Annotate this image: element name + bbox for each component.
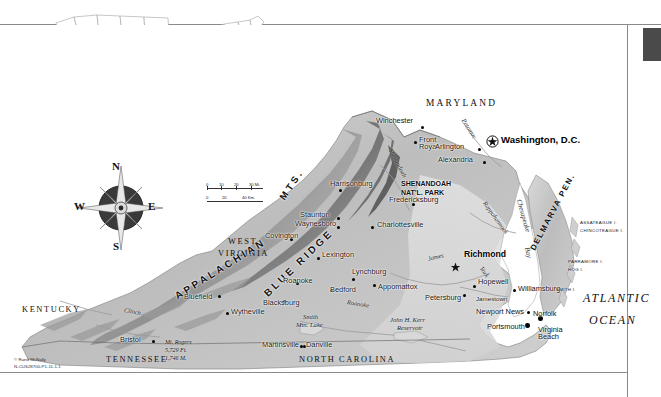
richmond-symbol: [450, 259, 461, 277]
city-label-jamestown: Jamestown: [476, 296, 507, 302]
scale-tick: [207, 186, 208, 190]
city-label-waynesboro: Waynesboro: [295, 220, 336, 228]
compass-east-label: E: [148, 200, 155, 212]
island-label-chincoteague: CHINCOTEAGUE I.: [580, 229, 624, 234]
city-label-williamsburg: Williamsburg: [518, 285, 560, 293]
scale-axis-miles: [207, 188, 263, 189]
frame-bottom-rule: [0, 372, 627, 373]
frame-right-rule: [627, 24, 628, 397]
ocean-label-ocean: OCEAN: [589, 314, 636, 326]
city-dot-portsmouth: [525, 323, 530, 328]
compass-west-label: W: [74, 200, 85, 212]
ocean-label-atlantic: ATLANTIC: [583, 292, 650, 304]
city-label-covington: Covington: [265, 232, 298, 240]
city-label-fredericksburg: Fredericksburg: [389, 196, 438, 204]
page-edge-tab: [643, 28, 661, 61]
city-label-harrisonburg: Harrisonburg: [330, 180, 373, 188]
state-label-kentucky: KENTUCKY: [22, 306, 81, 315]
city-label-bedford: Bedford: [330, 286, 356, 294]
capital-label-washington-dc: Washington, D.C.: [501, 135, 580, 145]
city-label-appomattox: Appomattox: [378, 283, 417, 291]
island-label-assateague: ASSATEAGUE I.: [580, 221, 617, 226]
city-label-blacksburg: Blacksburg: [263, 299, 300, 307]
lake-label-kerr-line1: John H. Kerr: [390, 317, 425, 324]
bay-label-bay: Bay: [523, 247, 533, 259]
peak-elevation-feet: 5,729 Ft.: [165, 347, 187, 355]
state-label-tennessee: TENNESSEE: [106, 356, 167, 365]
scale-tick: [221, 186, 222, 190]
city-label-danville: Danville: [306, 341, 332, 349]
city-label-bristol: Bristol: [120, 336, 141, 344]
state-label-maryland: MARYLAND: [426, 99, 497, 109]
city-label-charlottesville: Charlottesville: [377, 221, 423, 229]
peak-elevation-meters: 1,746 M.: [165, 355, 187, 363]
peak-label-mt-rogers: Mt. Rogers: [165, 339, 192, 347]
state-label-north-carolina: NORTH CAROLINA: [299, 356, 395, 365]
lake-label-smith-mtn-line1: Smith: [303, 314, 318, 321]
city-label-wytheville: Wytheville: [231, 308, 265, 316]
city-label-lynchburg: Lynchburg: [352, 268, 386, 276]
city-label-alexandria: Alexandria: [438, 156, 473, 164]
city-label-newport-news: Newport News: [476, 308, 524, 316]
map-page: N S W E 0 10 20 30 Mi. 0 20 40 Km. MARYL…: [0, 0, 661, 397]
credit-catalog-code: N-CUS28700-P1-11-1-1: [14, 363, 61, 370]
compass-south-label: S: [113, 240, 119, 252]
city-label-hopewell: Hopewell: [478, 278, 508, 286]
city-label-winchester: Winchester: [376, 117, 413, 125]
city-label-lexington: Lexington: [322, 251, 354, 259]
lake-label-smith-mtn-line2: Mtn. Lake: [296, 322, 323, 329]
credit-publisher: © Rand McNally: [14, 356, 61, 363]
capital-label-richmond: Richmond: [464, 250, 506, 259]
city-label-arlington: Arlington: [435, 143, 464, 151]
city-label-virginia-beach: Virginia Beach: [538, 326, 576, 341]
city-label-norfolk: Norfolk: [533, 310, 556, 318]
city-label-portsmouth: Portsmouth: [487, 323, 525, 331]
compass-north-label: N: [112, 160, 120, 172]
scale-tick: [236, 186, 237, 190]
lake-label-kerr-line2: Reservoir: [397, 325, 423, 332]
city-label-bluefield: Bluefield: [184, 293, 212, 301]
city-label-martinsville: Martinsville: [262, 341, 299, 349]
city-label-roanoke: Roanoke: [283, 277, 313, 285]
washington-dc-symbol: [486, 134, 499, 152]
map-scale-bar: 0 10 20 30 Mi. 0 20 40 Km.: [206, 182, 276, 208]
island-label-hog: HOG I.: [568, 268, 583, 273]
park-label-shenandoah-line1: SHENANDOAH: [401, 180, 451, 187]
scale-tick: [251, 186, 252, 190]
city-label-staunton: Staunton: [300, 211, 330, 219]
island-label-smith: SMITH I.: [556, 288, 576, 293]
city-label-petersburg: Petersburg: [425, 294, 461, 302]
map-credit: © Rand McNally N-CUS28700-P1-11-1-1: [14, 356, 61, 370]
island-label-parramore: PARRAMORE I.: [568, 260, 603, 265]
scale-axis-km: [207, 201, 263, 202]
